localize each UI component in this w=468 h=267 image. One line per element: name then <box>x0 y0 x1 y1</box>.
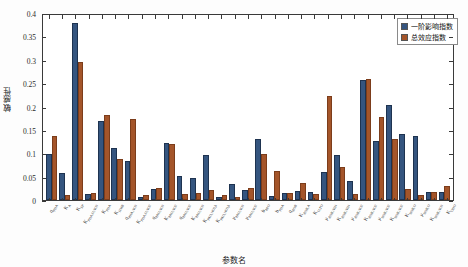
bar-total-effect <box>143 195 149 200</box>
bar-group <box>359 15 372 200</box>
x-axis-tick-mark-top <box>208 15 209 19</box>
bar-total-effect <box>327 96 333 200</box>
legend: 一阶影响指数 总效应指数 <box>397 18 458 45</box>
y-axis-tick-mark <box>42 131 46 132</box>
x-axis-tick-mark <box>301 198 302 201</box>
y-axis-tick-mark-right <box>449 61 453 62</box>
bar-group <box>124 15 137 200</box>
x-axis-tick-mark-top <box>341 15 342 19</box>
bar-total-effect <box>156 188 162 200</box>
x-axis-tick-mark-top <box>368 15 369 19</box>
bar-group <box>189 15 202 200</box>
x-axis-tick-mark <box>75 198 76 201</box>
x-axis-tick-mark-top <box>261 15 262 19</box>
x-axis-tick-label: bPAO <box>260 202 272 214</box>
bar-group <box>307 15 320 200</box>
x-axis-tick-mark <box>208 198 209 201</box>
bar-group <box>333 15 346 200</box>
sensitivity-bar-chart-figure: 敏感性 00.050.10.150.20.250.30.350.4 qPHAKA… <box>0 0 468 267</box>
bar-total-effect <box>104 115 110 200</box>
x-axis-tick-labels: qPHAKAKSPKPHA,O,NO3KPHAKHMBqPHA,NO3KPHA,… <box>42 202 454 248</box>
bar-group <box>163 15 176 200</box>
y-axis-tick-label: 0.4 <box>27 10 36 19</box>
x-axis-tick-mark <box>354 198 355 201</box>
bar-group <box>110 15 123 200</box>
x-axis-tick-mark <box>195 198 196 201</box>
bar-group <box>241 15 254 200</box>
bar-total-effect <box>274 171 280 200</box>
x-axis-tick-label: μPAO,NO3 <box>229 202 244 221</box>
bar-total-effect <box>366 79 372 200</box>
y-axis-tick-mark <box>42 178 46 179</box>
x-axis-tick-mark-top <box>407 15 408 19</box>
y-axis-tick-label: 0.15 <box>23 126 36 135</box>
x-axis-title: 参数名 <box>0 254 468 265</box>
y-axis-tick-labels: 00.050.10.150.20.250.30.350.4 <box>0 14 40 201</box>
x-axis-tick-mark <box>447 198 448 201</box>
x-axis-tick-mark-top <box>195 15 196 19</box>
x-axis-tick-mark-top <box>128 15 129 19</box>
y-axis-tick-mark-right <box>449 108 453 109</box>
x-axis-tick-mark <box>434 198 435 201</box>
x-axis-tick-mark-top <box>328 15 329 19</box>
x-axis-tick-label: KOHO <box>445 202 458 216</box>
x-axis-tick-mark <box>89 198 90 201</box>
bar-group <box>150 15 163 200</box>
bar-group <box>137 15 150 200</box>
y-axis-tick-mark-right <box>449 14 453 15</box>
bar-group <box>58 15 71 200</box>
legend-swatch-first-order-icon <box>401 23 408 30</box>
x-axis-tick-mark <box>368 198 369 201</box>
x-axis-tick-mark-top <box>142 15 143 19</box>
x-axis-tick-mark <box>235 198 236 201</box>
bar-total-effect <box>182 194 188 200</box>
x-axis-tick-mark-top <box>394 15 395 19</box>
bar-group <box>215 15 228 200</box>
bars-layer <box>43 15 453 200</box>
x-axis-tick-mark-top <box>301 15 302 19</box>
bar-total-effect <box>392 139 398 200</box>
y-axis-tick-label: 0.2 <box>27 103 36 112</box>
legend-item-first-order: 一阶影响指数 <box>401 21 453 31</box>
y-axis-tick-mark <box>42 108 46 109</box>
x-axis-tick-mark-top <box>102 15 103 19</box>
bar-group <box>84 15 97 200</box>
y-axis-tick-mark-right <box>449 178 453 179</box>
x-axis-tick-mark-top <box>49 15 50 19</box>
bar-total-effect <box>261 154 267 200</box>
x-axis-tick-mark <box>421 198 422 201</box>
bar-total-effect <box>222 195 228 200</box>
bar-total-effect <box>65 195 71 200</box>
legend-label-first-order: 一阶影响指数 <box>411 21 453 31</box>
bar-group <box>202 15 215 200</box>
y-axis-tick-mark-right <box>449 201 453 202</box>
x-axis-tick-mark-top <box>168 15 169 19</box>
bar-group <box>320 15 333 200</box>
x-axis-tick-mark-top <box>75 15 76 19</box>
x-axis-tick-mark <box>142 198 143 201</box>
x-axis-tick-mark <box>394 198 395 201</box>
y-axis-tick-mark <box>42 201 46 202</box>
y-axis-tick-mark-right <box>449 84 453 85</box>
bar-group <box>268 15 281 200</box>
x-axis-tick-mark-top <box>89 15 90 19</box>
x-axis-tick-mark-top <box>447 15 448 19</box>
x-axis-tick-label: KO,TO <box>312 202 325 216</box>
x-axis-tick-mark-top <box>421 15 422 19</box>
bar-total-effect <box>91 193 97 200</box>
y-axis-tick-mark-right <box>449 154 453 155</box>
x-axis-tick-mark <box>155 198 156 201</box>
x-axis-tick-mark-top <box>381 15 382 19</box>
x-axis-tick-mark <box>261 198 262 201</box>
bar-group <box>281 15 294 200</box>
bar-first-order <box>413 136 419 200</box>
y-axis-tick-mark <box>42 61 46 62</box>
x-axis-tick-mark <box>288 198 289 201</box>
x-axis-tick-mark-top <box>235 15 236 19</box>
x-axis-tick-mark <box>248 198 249 201</box>
x-axis-tick-mark <box>62 198 63 201</box>
bar-total-effect <box>130 119 136 200</box>
x-axis-tick-mark-top <box>275 15 276 19</box>
bar-group <box>228 15 241 200</box>
x-axis-tick-mark-top <box>288 15 289 19</box>
